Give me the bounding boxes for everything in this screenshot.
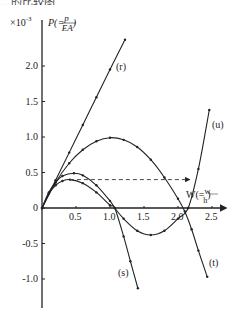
y-multiplier: ×10-3 [10,15,32,28]
y-tick-label: 1.0 [26,131,39,142]
y-tick-label: 0 [33,202,38,213]
series-u [42,110,209,235]
y-tick-label: -0.5 [22,238,38,249]
series-label-s: (s) [118,267,129,279]
y-tick-label: -1.0 [22,273,38,284]
curves [41,39,211,290]
x-tick-label: 2.5 [205,211,218,222]
series-label-u: (u) [212,119,224,131]
chart-canvas: 0.51.01.52.02.52.01.51.00.50-0.5-1.0 ×10… [0,0,244,323]
y-tick-label: 2.0 [26,60,39,71]
x-tick-label: 1.0 [103,211,116,222]
y-tick-label: 1.5 [26,96,39,107]
ticks: 0.51.01.52.02.52.01.51.00.50-0.5-1.0 [22,60,217,284]
x-tick-label: 0.5 [69,211,82,222]
series-label-r: (r) [116,61,126,73]
series-label-t: (t) [209,257,218,269]
y-tick-label: 0.5 [26,167,39,178]
x-tick-label: 1.5 [137,211,150,222]
